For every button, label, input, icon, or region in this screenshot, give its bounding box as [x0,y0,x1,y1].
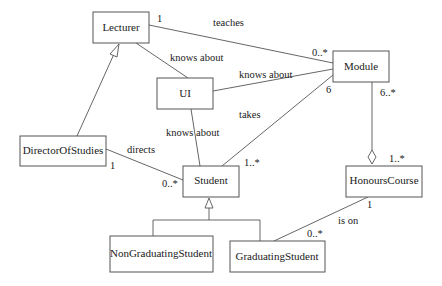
mult-grad-is-on: 0..* [307,228,323,239]
label-knows-about-ui-student: knows about [166,127,219,138]
mult-lecturer-teaches: 1 [157,13,162,24]
mult-student-takes: 1..* [244,157,260,168]
label-knows-about-lecturer-ui: knows about [170,52,223,63]
mult-student-directs: 0..* [162,178,178,189]
class-graduating-student[interactable]: GraduatingStudent [230,241,325,272]
label-directs: directs [127,144,155,155]
class-name: Student [194,174,228,186]
mult-module-teaches: 0..* [312,47,328,58]
class-name: Lecturer [102,21,140,33]
label-is-on: is on [338,215,359,226]
mult-honours-is-on: 1 [367,199,372,210]
mult-honours-agg: 1..* [389,153,405,164]
generalization-arrow-icon [205,198,213,208]
label-teaches: teaches [213,17,244,28]
generalization-arrow-icon [110,44,119,57]
class-name: GraduatingStudent [235,250,318,262]
class-name: HonoursCourse [349,174,418,186]
class-honours-course[interactable]: HonoursCourse [346,166,422,197]
class-ui[interactable]: UI [157,78,213,109]
aggregation-diamond-icon [368,150,376,164]
mult-director-directs: 1 [110,160,115,171]
class-name: UI [179,87,191,99]
mult-module-agg: 6..* [380,87,396,98]
edge-takes [222,75,333,166]
mult-module-takes: 6 [326,84,331,95]
class-lecturer[interactable]: Lecturer [93,12,149,43]
class-student[interactable]: Student [183,166,239,197]
label-takes: takes [239,109,261,120]
class-name: Module [344,60,378,72]
class-module[interactable]: Module [333,51,389,82]
class-name: DirectorOfStudies [23,144,104,156]
uml-class-diagram: Lecturer UI Module DirectorOfStudies Stu… [0,0,442,286]
label-knows-about-ui-module: knows about [239,69,292,80]
edge-generalization-director [77,54,114,136]
class-non-graduating-student[interactable]: NonGraduatingStudent [110,236,213,272]
class-director-of-studies[interactable]: DirectorOfStudies [20,136,106,166]
class-name: NonGraduatingStudent [110,247,212,259]
